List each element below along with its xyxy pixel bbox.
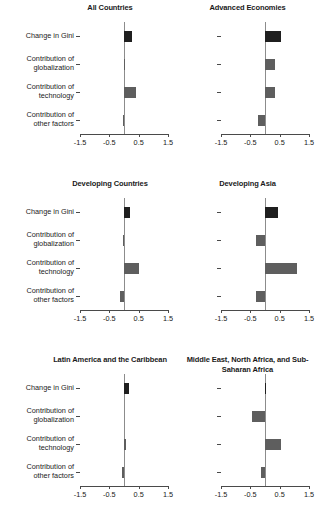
x-axis-tick [221, 486, 222, 489]
plot-area: Change in GiniContribution of globalizat… [0, 374, 174, 504]
category-label: Contribution of other factors [27, 286, 74, 304]
bar [124, 207, 130, 218]
category-axis: Change in GiniContribution of globalizat… [0, 22, 80, 134]
category-axis: Change in GiniContribution of globalizat… [0, 374, 80, 486]
category-label: Change in Gini [26, 207, 74, 216]
panel-latin-america-caribbean: Latin America and the Caribbean Change i… [0, 352, 174, 529]
x-axis-tick [221, 310, 222, 313]
bar [256, 291, 265, 302]
x-axis-tick [309, 486, 310, 489]
x-axis-tick [139, 310, 140, 313]
axes: -1.5-0.50.51.5 [80, 374, 168, 486]
x-axis-line [80, 486, 168, 487]
bar [120, 291, 124, 302]
x-axis-tick-label: 1.5 [298, 314, 320, 323]
x-axis-tick [309, 134, 310, 137]
category-label: Change in Gini [26, 31, 74, 40]
category-label: Contribution of technology [27, 258, 74, 276]
panel-mena-ssa: Middle East, North Africa, and Sub-Sahar… [174, 352, 321, 529]
x-axis-tick [139, 486, 140, 489]
category-axis [174, 198, 221, 310]
axes: -1.5-0.50.51.5 [221, 374, 309, 486]
x-axis-tick [280, 486, 281, 489]
bar [265, 263, 297, 274]
bar [261, 467, 265, 478]
x-axis-tick-label: -1.5 [69, 138, 91, 147]
x-axis-tick-label: 0.5 [128, 314, 150, 323]
panel-row-2: Developing Countries Change in GiniContr… [0, 176, 321, 352]
panel-title: Latin America and the Caribbean [0, 352, 174, 374]
bar [124, 439, 126, 450]
category-label: Contribution of technology [27, 434, 74, 452]
panel-title: Developing Asia [174, 176, 321, 198]
bar [265, 383, 266, 394]
bar [265, 87, 275, 98]
x-axis-tick [109, 310, 110, 313]
axes: -1.5-0.50.51.5 [221, 22, 309, 134]
x-axis-tick [80, 310, 81, 313]
x-axis-tick-label: -0.5 [239, 138, 261, 147]
x-axis-tick-label: -0.5 [239, 314, 261, 323]
x-axis-tick [168, 486, 169, 489]
bar [265, 31, 281, 42]
x-axis-tick [80, 486, 81, 489]
x-axis-tick-label: -0.5 [98, 490, 120, 499]
x-axis-tick [168, 134, 169, 137]
bar [265, 207, 278, 218]
x-axis-tick [139, 134, 140, 137]
panel-all-countries: All Countries Change in GiniContribution… [0, 0, 174, 176]
x-axis-tick [309, 310, 310, 313]
bar [252, 411, 265, 422]
bar [258, 115, 265, 126]
panel-title: Developing Countries [0, 176, 174, 198]
x-axis-tick-label: 1.5 [298, 490, 320, 499]
plot-area: Change in GiniContribution of globalizat… [0, 198, 174, 328]
plot-area: -1.5-0.50.51.5 [174, 22, 321, 152]
bar [256, 235, 265, 246]
axes: -1.5-0.50.51.5 [221, 198, 309, 310]
panel-title: Advanced Economies [174, 0, 321, 22]
x-axis-tick [250, 134, 251, 137]
x-axis-tick-label: -0.5 [98, 314, 120, 323]
bar [124, 87, 136, 98]
axes: -1.5-0.50.51.5 [80, 22, 168, 134]
x-axis-tick [280, 310, 281, 313]
x-axis-tick [250, 486, 251, 489]
x-axis-tick [109, 134, 110, 137]
plot-area: -1.5-0.50.51.5 [174, 198, 321, 328]
category-label: Change in Gini [26, 383, 74, 392]
x-axis-tick-label: 0.5 [128, 490, 150, 499]
panel-advanced-economies: Advanced Economies -1.5-0.50.51.5 [174, 0, 321, 176]
bar [265, 439, 281, 450]
category-axis [174, 374, 221, 486]
x-axis-tick-label: -1.5 [210, 314, 232, 323]
bar [123, 235, 124, 246]
bar [124, 59, 125, 70]
x-axis-tick-label: 0.5 [269, 490, 291, 499]
panel-developing-asia: Developing Asia -1.5-0.50.51.5 [174, 176, 321, 352]
x-axis-tick [109, 486, 110, 489]
x-axis-line [221, 486, 309, 487]
category-label: Contribution of globalization [27, 230, 74, 248]
axes: -1.5-0.50.51.5 [80, 198, 168, 310]
x-axis-tick-label: 0.5 [269, 138, 291, 147]
plot-area: -1.5-0.50.51.5 [174, 374, 321, 504]
panel-developing-countries: Developing Countries Change in GiniContr… [0, 176, 174, 352]
x-axis-tick-label: 1.5 [298, 138, 320, 147]
panel-title: All Countries [0, 0, 174, 22]
category-label: Contribution of other factors [27, 110, 74, 128]
category-label: Contribution of other factors [27, 462, 74, 480]
inequality-decomposition-chart: All Countries Change in GiniContribution… [0, 0, 321, 529]
bar [123, 115, 124, 126]
x-axis-tick [250, 310, 251, 313]
panel-title: Middle East, North Africa, and Sub-Sahar… [174, 352, 321, 374]
x-axis-tick-label: -0.5 [98, 138, 120, 147]
x-axis-tick-label: 0.5 [128, 138, 150, 147]
category-axis: Change in GiniContribution of globalizat… [0, 198, 80, 310]
panel-row-3: Latin America and the Caribbean Change i… [0, 352, 321, 529]
x-axis-line [221, 310, 309, 311]
x-axis-line [80, 134, 168, 135]
bar [265, 59, 275, 70]
category-axis [174, 22, 221, 134]
category-label: Contribution of globalization [27, 54, 74, 72]
